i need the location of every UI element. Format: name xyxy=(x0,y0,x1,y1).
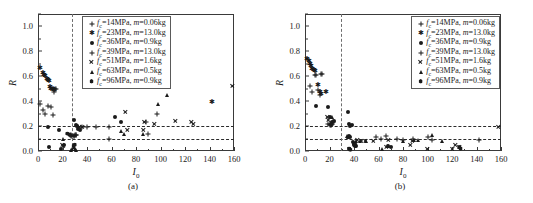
marker-plus xyxy=(476,137,481,142)
marker-plus xyxy=(43,111,48,116)
subplot-a: R I0 0.00.20.40.60.81.0 0204060801001201… xyxy=(0,0,266,203)
marker-cross xyxy=(172,118,177,123)
marker-tri xyxy=(74,148,78,152)
marker-cross xyxy=(191,121,196,126)
marker-tri xyxy=(90,70,94,74)
marker-plus xyxy=(418,21,423,26)
marker-cross xyxy=(89,59,94,64)
marker-circle xyxy=(419,41,423,45)
legend-marker xyxy=(86,57,97,67)
x-tick-label: 120 xyxy=(446,151,459,164)
marker-circle xyxy=(46,125,50,129)
horizontal-reference-line xyxy=(38,139,234,140)
marker-tri xyxy=(141,132,145,136)
legend-marker xyxy=(415,67,426,77)
marker-tri xyxy=(380,147,384,151)
plot-area-a: R I0 0.00.20.40.60.81.0 0204060801001201… xyxy=(38,14,234,151)
y-tick-label: 0.8 xyxy=(22,47,38,56)
x-tick-label: 160 xyxy=(495,151,508,164)
marker-tri xyxy=(330,115,334,119)
marker-circle xyxy=(72,118,76,122)
x-tick-label: 140 xyxy=(203,151,216,164)
subplot-caption-a: (a) xyxy=(128,181,138,191)
x-minor-tick xyxy=(197,149,198,152)
figure-container: R I0 0.00.20.40.60.81.0 0204060801001201… xyxy=(0,0,533,203)
marker-tri xyxy=(346,135,350,139)
x-tick-label: 100 xyxy=(421,151,434,164)
y-tick-label: 0.8 xyxy=(289,47,305,56)
marker-cross xyxy=(371,138,376,143)
marker-plus xyxy=(310,90,315,95)
x-tick-mark xyxy=(403,147,404,151)
marker-cross xyxy=(386,137,391,142)
x-minor-tick xyxy=(173,149,174,152)
x-tick-label: 0 xyxy=(36,151,40,164)
marker-circle xyxy=(350,123,354,127)
marker-plus xyxy=(73,132,78,137)
marker-plus xyxy=(394,136,399,141)
marker-star: ✱ xyxy=(51,87,57,93)
x-tick-label: 40 xyxy=(350,151,359,164)
x-tick-mark xyxy=(210,147,211,151)
x-tick-mark xyxy=(38,147,39,151)
legend-marker xyxy=(415,57,426,67)
x-axis-label-b: I0 xyxy=(400,166,407,180)
marker-star: ✱ xyxy=(418,30,424,36)
marker-plus xyxy=(93,125,98,130)
y-tick-mark xyxy=(305,51,309,52)
y-tick-label: 0.6 xyxy=(22,72,38,81)
marker-cross xyxy=(230,84,235,89)
y-minor-tick xyxy=(305,113,308,114)
plot-area-b: R I0 0.00.20.40.60.81.0 0204060801001201… xyxy=(305,14,501,151)
x-tick-label: 100 xyxy=(154,151,167,164)
marker-plus xyxy=(430,137,435,142)
marker-cross xyxy=(142,120,147,125)
x-minor-tick xyxy=(50,149,51,152)
x-minor-tick xyxy=(464,149,465,152)
marker-hex xyxy=(89,79,94,84)
x-minor-tick xyxy=(440,149,441,152)
marker-plus xyxy=(50,112,55,117)
x-minor-tick xyxy=(415,149,416,152)
x-tick-mark xyxy=(136,147,137,151)
legend-marker xyxy=(415,38,426,48)
legend-a: fc=14MPa, m=0.06kg✱fc=23MPa, m=13.0kgfc=… xyxy=(82,16,171,89)
legend-label: fc=96MPa, m=0.9kg xyxy=(97,77,162,87)
x-tick-mark xyxy=(87,147,88,151)
legend-marker xyxy=(86,67,97,77)
vertical-reference-line xyxy=(341,14,342,151)
y-tick-mark xyxy=(38,51,42,52)
y-tick-mark xyxy=(38,26,42,27)
horizontal-reference-line xyxy=(305,126,501,127)
x-minor-tick xyxy=(148,149,149,152)
marker-plus xyxy=(418,50,423,55)
legend-marker xyxy=(86,38,97,48)
marker-cross xyxy=(418,59,423,64)
legend-marker: ✱ xyxy=(86,29,97,39)
x-axis-label-a: I0 xyxy=(133,166,140,180)
subplot-caption-b: (b) xyxy=(395,181,406,191)
x-tick-label: 80 xyxy=(132,151,141,164)
y-axis-label-b: R xyxy=(274,79,285,85)
subplot-b: R I0 0.00.20.40.60.81.0 0204060801001201… xyxy=(267,0,533,203)
marker-cross xyxy=(61,143,66,148)
marker-circle xyxy=(47,145,51,149)
y-minor-tick xyxy=(305,14,308,15)
x-minor-tick xyxy=(366,149,367,152)
x-minor-tick xyxy=(342,149,343,152)
y-tick-label: 0.2 xyxy=(289,122,305,131)
marker-plus xyxy=(38,101,43,106)
x-tick-label: 160 xyxy=(228,151,241,164)
y-minor-tick xyxy=(38,38,41,39)
marker-plus xyxy=(320,71,325,76)
legend-entry: fc=96MPa, m=0.9kg xyxy=(415,77,495,87)
legend-marker xyxy=(415,19,426,29)
marker-plus xyxy=(89,21,94,26)
marker-cross xyxy=(79,125,84,130)
marker-tri xyxy=(165,93,169,97)
y-minor-tick xyxy=(38,14,41,15)
x-minor-tick xyxy=(99,149,100,152)
x-tick-label: 20 xyxy=(58,151,67,164)
x-tick-mark xyxy=(305,147,306,151)
x-tick-label: 0 xyxy=(303,151,307,164)
